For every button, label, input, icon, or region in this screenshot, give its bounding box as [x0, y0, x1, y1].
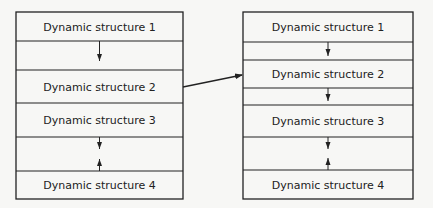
- left-stack-structure-label: Dynamic structure 1: [43, 21, 155, 34]
- left-stack-gap-up-arrow-icon: [97, 159, 102, 171]
- left-stack-structure-label: Dynamic structure 3: [43, 114, 155, 127]
- right-stack-gap-down-arrow-icon: [326, 42, 331, 56]
- left-stack-structure-label: Dynamic structure 2: [43, 81, 155, 94]
- right-stack-gap-down-arrow-icon: [326, 137, 331, 149]
- right-stack-gap-down-arrow-icon: [326, 88, 331, 101]
- right-stack-structure-label: Dynamic structure 2: [272, 68, 384, 81]
- right-stack-structure-label: Dynamic structure 1: [272, 21, 384, 34]
- left-stack: Dynamic structure 1Dynamic structure 2Dy…: [16, 12, 183, 199]
- right-stack-structure-label: Dynamic structure 4: [272, 179, 384, 192]
- right-stack: Dynamic structure 1Dynamic structure 2Dy…: [243, 12, 413, 199]
- left-stack-gap-down-arrow-icon: [97, 41, 102, 61]
- right-stack-structure-label: Dynamic structure 3: [272, 115, 384, 128]
- memory-layout-diagram: Dynamic structure 1Dynamic structure 2Dy…: [0, 0, 433, 208]
- left-stack-structure-label: Dynamic structure 4: [43, 179, 155, 192]
- right-stack-gap-up-arrow-icon: [326, 158, 331, 170]
- connector-arrow: [183, 75, 242, 87]
- left-stack-gap-down-arrow-icon: [97, 137, 102, 149]
